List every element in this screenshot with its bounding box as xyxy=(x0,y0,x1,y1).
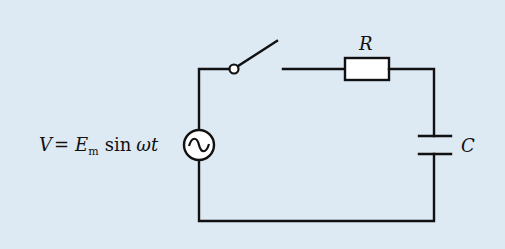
source-label: V=Emsinωt xyxy=(39,134,159,158)
ac-source xyxy=(184,130,214,160)
capacitor-label: C xyxy=(461,135,475,156)
resistor xyxy=(345,58,389,80)
source-label-E: E xyxy=(74,134,88,155)
wire-source-to-switch xyxy=(199,69,230,130)
wire-capacitor-to-source xyxy=(199,154,434,221)
source-label-subscript: m xyxy=(88,145,99,158)
resistor-label: R xyxy=(358,33,373,54)
circuit-diagram: V=Emsinωt R C xyxy=(0,0,505,249)
source-label-eq: = xyxy=(54,134,69,155)
source-label-omega-t: ωt xyxy=(136,134,159,155)
source-label-V: V xyxy=(39,134,54,155)
source-label-sin: sin xyxy=(105,134,132,155)
wire-resistor-to-capacitor xyxy=(389,69,434,136)
switch-arm xyxy=(238,41,277,66)
